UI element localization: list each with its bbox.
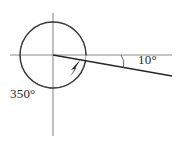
- angle-label-10: 10°: [138, 52, 157, 68]
- small-angle-arc: [121, 55, 124, 68]
- angle-diagram-canvas: [0, 0, 177, 148]
- angle-label-350: 350°: [10, 86, 36, 102]
- angle-diagram-figure: 350° 10°: [0, 0, 177, 148]
